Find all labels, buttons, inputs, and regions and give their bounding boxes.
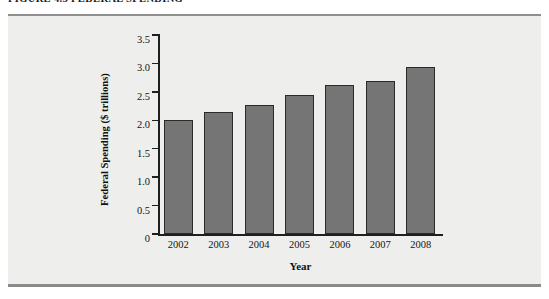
y-axis-title: Federal Spending ($ trillions) [99, 40, 110, 240]
x-axis-tick-label: 2005 [279, 239, 319, 250]
x-axis-tick-label: 2007 [360, 239, 400, 250]
x-axis-tick-label: 2006 [320, 239, 360, 250]
bar-chart: Federal Spending ($ trillions) 00.51.01.… [8, 16, 541, 284]
bar [285, 95, 314, 234]
y-axis-tick-label-text: 3.0 [124, 63, 150, 74]
y-axis-tick-label-text: 1.0 [124, 177, 150, 188]
y-axis-tick-label-text: 0.5 [124, 206, 150, 217]
y-axis-tick-label-text: 3.5 [124, 35, 150, 46]
x-axis-title: Year [158, 260, 443, 272]
bar [325, 85, 354, 234]
bar [406, 67, 435, 234]
bar [245, 105, 274, 234]
x-axis-tick-label: 2004 [239, 239, 279, 250]
y-axis-tick-label-text: 2.5 [124, 92, 150, 103]
x-axis-tick-label: 2002 [158, 239, 198, 250]
plot-area [158, 35, 441, 234]
bar [164, 120, 193, 234]
y-axis-tick-label-text: 1.5 [124, 149, 150, 160]
x-axis-line [158, 234, 443, 236]
figure-frame: Federal Spending ($ trillions) 00.51.01.… [8, 14, 541, 287]
x-axis-tick-label: 2003 [198, 239, 238, 250]
x-axis-tick-label: 2008 [401, 239, 441, 250]
figure-caption: FIGURE 4.3 FEDERAL SPENDING [8, 0, 183, 4]
y-axis-tick-label-text: 0 [124, 234, 150, 245]
bar [366, 81, 395, 235]
bar [204, 112, 233, 234]
y-axis-tick-label-text: 2.0 [124, 120, 150, 131]
